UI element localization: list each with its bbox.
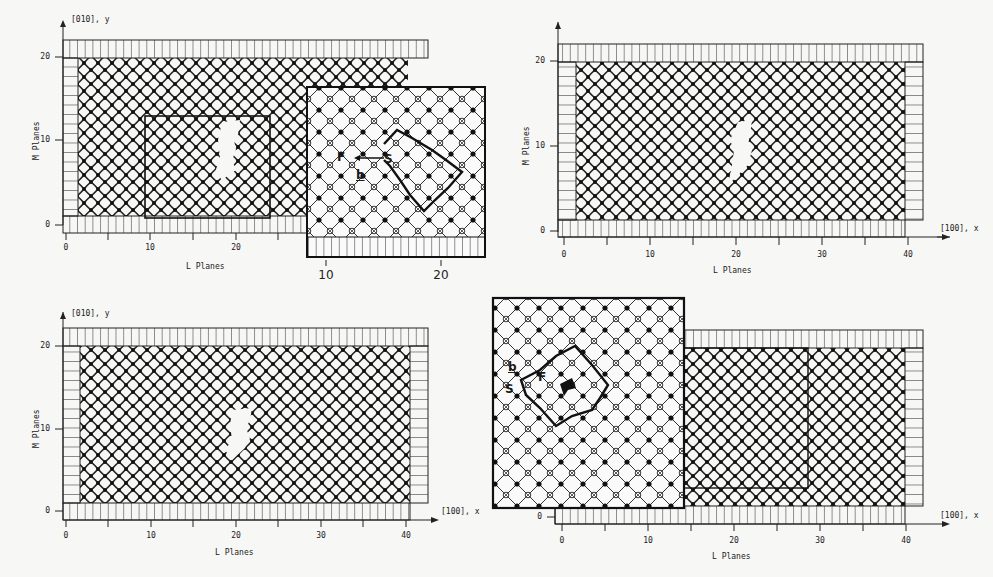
burgers-vector-label: b	[508, 360, 517, 374]
x-tick: 40	[401, 531, 411, 540]
x-axis-label: [100], x	[940, 511, 979, 520]
y-tick-0: 0	[525, 226, 545, 235]
x-tick: 30	[815, 536, 825, 545]
x-axis-label: [100], x	[441, 507, 480, 516]
finish-label: F	[538, 370, 546, 384]
inset-x-tick: 20	[433, 268, 448, 282]
inset-top-left	[307, 87, 485, 266]
start-label: S	[505, 382, 514, 396]
x-tick: 20	[731, 250, 741, 259]
x-axis-title: L Planes	[713, 266, 752, 275]
x-tick: 20	[231, 531, 241, 540]
x-tick: 0	[562, 250, 567, 259]
inset-x-tick: 10	[318, 268, 333, 282]
y-axis-label: [010], y	[71, 309, 110, 318]
x-tick: 10	[645, 250, 655, 259]
y-tick-20: 20	[30, 52, 50, 61]
x-tick: 30	[316, 531, 326, 540]
x-tick: 40	[901, 536, 911, 545]
burgers-vector-label: b	[356, 168, 365, 182]
panel-top-right	[550, 22, 950, 245]
x-axis-title: L Planes	[186, 262, 225, 271]
x-tick: 20	[231, 243, 241, 252]
x-tick: 10	[643, 536, 653, 545]
finish-label: F	[337, 150, 345, 164]
x-axis-label: [100], x	[940, 224, 979, 233]
x-tick: 20	[729, 536, 739, 545]
y-axis-label-top-left: [010], y	[71, 15, 110, 24]
start-label: S	[384, 152, 393, 166]
y-axis-title: M Planes	[32, 409, 41, 448]
y-tick-20: 20	[30, 341, 50, 350]
panel-bottom-left	[55, 312, 439, 527]
x-tick: 30	[817, 250, 827, 259]
y-tick-20: 20	[525, 56, 545, 65]
x-tick: 0	[560, 536, 565, 545]
y-tick-0: 0	[30, 506, 50, 515]
y-axis-title: M Planes	[522, 126, 531, 165]
y-tick-0: 0	[522, 512, 542, 521]
x-tick: 40	[903, 250, 913, 259]
x-axis-title: L Planes	[712, 552, 751, 561]
x-tick: 0	[64, 531, 69, 540]
x-tick: 0	[64, 243, 69, 252]
y-tick-0: 0	[30, 220, 50, 229]
x-tick: 10	[145, 243, 155, 252]
figure-canvas	[0, 0, 993, 577]
y-axis-title: M Planes	[32, 121, 41, 160]
inset-bottom-right	[493, 298, 684, 508]
x-tick: 10	[146, 531, 156, 540]
x-axis-title: L Planes	[215, 548, 254, 557]
